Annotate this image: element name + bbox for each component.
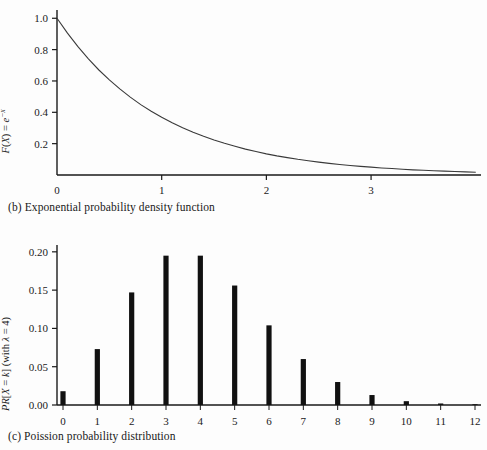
poisson-panel: 0.000.050.100.150.200123456789101112 bbox=[0, 225, 487, 450]
poisson-bar bbox=[438, 403, 443, 405]
poisson-bar bbox=[163, 256, 168, 405]
exponential-y-tick-label: 0.8 bbox=[34, 44, 48, 56]
poisson-y-tick-label: 0.05 bbox=[29, 361, 49, 373]
exponential-curve bbox=[57, 18, 476, 172]
poisson-bar bbox=[198, 256, 203, 405]
poisson-x-tick-label: 10 bbox=[401, 415, 413, 425]
exponential-y-tick-label: 0.6 bbox=[34, 75, 48, 87]
poisson-x-tick-label: 5 bbox=[232, 415, 238, 425]
poisson-x-tick-label: 0 bbox=[60, 415, 66, 425]
poisson-y-tick-label: 0.10 bbox=[29, 322, 49, 334]
poisson-bar bbox=[404, 401, 409, 405]
poisson-x-tick-label: 6 bbox=[266, 415, 272, 425]
poisson-caption: (c) Poission probability distribution bbox=[8, 430, 176, 442]
poisson-x-tick-label: 11 bbox=[435, 415, 446, 425]
poisson-x-tick-label: 3 bbox=[163, 415, 169, 425]
poisson-y-tick-label: 0.00 bbox=[29, 399, 49, 411]
exponential-plot: 0.20.40.60.81.00123 bbox=[0, 0, 487, 200]
exponential-y-tick-label: 0.4 bbox=[34, 106, 48, 118]
figure-page: 0.20.40.60.81.00123 F(X) = e−x (b) Expon… bbox=[0, 0, 487, 450]
poisson-y-axis-label: PR[X = k] (with λ = 4) bbox=[0, 317, 11, 411]
poisson-plot: 0.000.050.100.150.200123456789101112 bbox=[0, 225, 487, 425]
poisson-x-tick-label: 8 bbox=[335, 415, 341, 425]
exponential-x-tick-label: 2 bbox=[264, 184, 270, 196]
poisson-bar bbox=[369, 395, 374, 405]
poisson-bar bbox=[301, 359, 306, 405]
exponential-y-tick-label: 1.0 bbox=[34, 12, 48, 24]
poisson-x-tick-label: 12 bbox=[470, 415, 481, 425]
exponential-x-tick-label: 0 bbox=[54, 184, 60, 196]
exponential-y-axis-label: F(X) = e−x bbox=[0, 109, 11, 153]
exponential-x-tick-label: 3 bbox=[368, 184, 374, 196]
poisson-y-tick-label: 0.20 bbox=[29, 246, 49, 258]
poisson-x-tick-label: 2 bbox=[129, 415, 135, 425]
poisson-x-tick-label: 7 bbox=[301, 415, 307, 425]
poisson-bar bbox=[129, 292, 134, 405]
poisson-bar bbox=[472, 404, 477, 405]
poisson-bar bbox=[95, 349, 100, 405]
poisson-x-tick-label: 9 bbox=[369, 415, 375, 425]
poisson-x-tick-label: 1 bbox=[95, 415, 101, 425]
exponential-y-tick-label: 0.2 bbox=[34, 138, 48, 150]
poisson-bar bbox=[266, 325, 271, 405]
poisson-bar bbox=[335, 382, 340, 405]
poisson-y-tick-label: 0.15 bbox=[29, 284, 49, 296]
poisson-x-tick-label: 4 bbox=[198, 415, 204, 425]
exponential-caption: (b) Exponential probability density func… bbox=[8, 201, 215, 213]
poisson-bar bbox=[60, 391, 65, 405]
exponential-x-tick-label: 1 bbox=[159, 184, 165, 196]
poisson-bar bbox=[232, 286, 237, 405]
exponential-panel: 0.20.40.60.81.00123 F(X) = e−x (b) Expon… bbox=[0, 0, 487, 225]
